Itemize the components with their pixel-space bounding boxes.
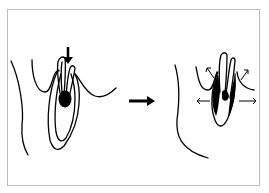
tooth-diagram (0, 0, 269, 193)
crown-inner (61, 62, 62, 92)
crown-left-right (219, 53, 227, 94)
jaw-outline-left (11, 61, 28, 155)
apical-lesion (59, 91, 72, 108)
jaw-outline-right (175, 65, 208, 158)
gum-line-right-right (237, 72, 254, 90)
transition-arrow (129, 96, 155, 106)
arrow-right-icon (239, 98, 256, 104)
widened-pdl-left (212, 74, 220, 116)
force-arrow (63, 47, 73, 64)
arrow-up-left-icon (206, 68, 214, 78)
arrow-up-right-icon (241, 70, 248, 80)
arrow-left-icon (197, 98, 210, 104)
widened-pdl-center (222, 90, 229, 101)
gum-line-right (75, 74, 116, 97)
